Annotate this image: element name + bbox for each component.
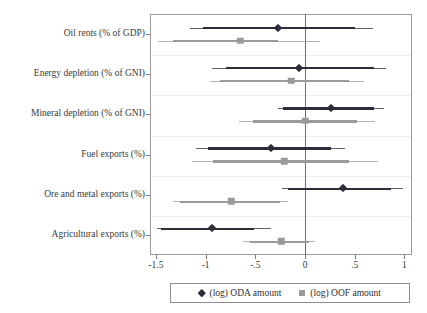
x-axis-tick-label: 0	[303, 260, 308, 270]
y-axis-category-label: Oil rents (% of GDP)	[64, 29, 145, 39]
row-separator	[151, 55, 411, 56]
x-axis-tick-label: .5	[351, 260, 358, 270]
x-axis-tick	[156, 255, 157, 259]
x-axis-tick	[404, 255, 405, 259]
legend-square-icon	[299, 290, 305, 296]
x-axis-tick-label: -1.5	[148, 260, 163, 270]
y-axis-category-label: Agricultural exports (%)	[52, 230, 145, 240]
plot-area	[150, 14, 412, 255]
x-axis-tick	[305, 255, 306, 259]
coefficient-plot: -1.5-1-.50.51Oil rents (% of GDP)Energy …	[0, 0, 427, 313]
legend-item[interactable]: (log) ODA amount	[199, 288, 281, 298]
y-axis-category-label: Mineral depletion (% of GNI)	[31, 110, 145, 120]
legend-label: (log) ODA amount	[210, 288, 282, 298]
y-axis-tick	[146, 74, 150, 75]
y-axis-category-label: Fuel exports (%)	[81, 150, 145, 160]
chart-legend: (log) ODA amount(log) OOF amount	[170, 283, 410, 303]
point-marker-oof	[302, 118, 309, 125]
point-marker-oof	[228, 198, 235, 205]
x-axis-tick-label: -.5	[250, 260, 260, 270]
confidence-interval-inner	[173, 40, 278, 42]
y-axis-category-label: Energy depletion (% of GNI)	[34, 70, 145, 80]
y-axis-tick	[146, 195, 150, 196]
x-axis-tick-label: -1	[202, 260, 210, 270]
x-axis-tick-label: 1	[402, 260, 407, 270]
point-marker-oof	[278, 238, 285, 245]
row-separator	[151, 176, 411, 177]
y-axis-tick	[146, 235, 150, 236]
legend-diamond-icon	[198, 289, 206, 297]
legend-item[interactable]: (log) OOF amount	[299, 288, 381, 298]
y-axis-tick	[146, 34, 150, 35]
row-separator	[151, 216, 411, 217]
point-marker-oof	[281, 158, 288, 165]
y-axis-category-label: Ore and metal exports (%)	[44, 190, 145, 200]
row-separator	[151, 136, 411, 137]
point-marker-oof	[288, 78, 295, 85]
x-axis-tick	[206, 255, 207, 259]
row-separator	[151, 95, 411, 96]
zero-reference-line	[305, 14, 306, 255]
confidence-interval-inner	[220, 80, 349, 82]
x-axis-tick	[355, 255, 356, 259]
point-marker-oof	[237, 37, 244, 44]
y-axis-tick	[146, 114, 150, 115]
y-axis-tick	[146, 155, 150, 156]
x-axis-tick	[255, 255, 256, 259]
legend-label: (log) OOF amount	[310, 288, 381, 298]
